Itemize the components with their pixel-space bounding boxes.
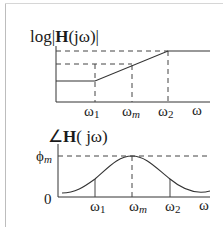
magnitude-tick-omega1: ω1 — [84, 103, 99, 120]
magnitude-x-axis-label: ω — [192, 102, 202, 118]
magnitude-tick-omega2: ω2 — [158, 103, 173, 120]
bode-plots-svg: log|H(jω)| ω1 ωm ω2 ω ∠H( jω) — [0, 0, 223, 227]
phase-curve — [62, 156, 210, 193]
magnitude-asymptote-curve — [56, 51, 210, 81]
phase-y-label: ∠H( jω) — [48, 127, 108, 146]
magnitude-tick-omegam: ωm — [122, 103, 140, 120]
phase-tick-omega2: ω2 — [165, 198, 180, 215]
magnitude-plot: log|H(jω)| ω1 ωm ω2 ω — [30, 27, 210, 120]
phase-tick-phim: ϕm — [36, 148, 52, 165]
phase-tick-omegam: ωm — [129, 198, 147, 215]
phase-tick-omega1: ω1 — [90, 198, 105, 215]
phase-plot: ∠H( jω) ϕm 0 ω1 ωm ω2 ω — [36, 127, 210, 215]
phase-x-axis-label: ω — [199, 197, 209, 213]
magnitude-y-label: log|H(jω)| — [30, 27, 99, 46]
lead-compensator-bode-diagram: log|H(jω)| ω1 ωm ω2 ω ∠H( jω) — [0, 0, 223, 227]
phase-tick-zero: 0 — [44, 191, 52, 207]
